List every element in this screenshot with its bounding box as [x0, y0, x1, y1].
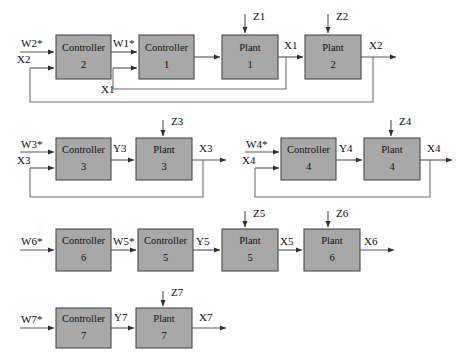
label-x2-output: X2: [369, 39, 382, 51]
block-plant-1[interactable]: Plant 1: [222, 35, 278, 79]
block-plant-2-line1: Plant: [322, 42, 344, 53]
block-plant-1-line1: Plant: [239, 42, 261, 53]
block-controller-3-line2: 3: [81, 161, 86, 172]
block-plant-3[interactable]: Plant 3: [136, 138, 192, 180]
block-controller-5-line1: Controller: [144, 235, 188, 246]
label-z1: Z1: [253, 10, 265, 22]
block-plant-6-line2: 6: [329, 252, 334, 263]
block-plant-1-line2: 1: [247, 59, 252, 70]
block-controller-2[interactable]: Controller 2: [56, 35, 111, 79]
block-plant-4-line2: 4: [389, 161, 395, 172]
block-plant-7-line1: Plant: [153, 313, 175, 324]
block-plant-3-line2: 3: [161, 161, 166, 172]
block-diagram-svg: Controller 2 Controller 1 Plant 1 Plant …: [0, 0, 463, 363]
label-w2-star: W2*: [21, 37, 42, 49]
label-x1-feedback: X1: [101, 83, 114, 95]
block-plant-3-line1: Plant: [153, 144, 175, 155]
block-controller-1[interactable]: Controller 1: [139, 35, 194, 79]
label-w1-star: W1*: [113, 37, 134, 49]
block-diagram-canvas: Controller 2 Controller 1 Plant 1 Plant …: [0, 0, 463, 363]
block-controller-3[interactable]: Controller 3: [56, 138, 111, 180]
label-y3: Y3: [113, 142, 127, 154]
block-plant-2-line2: 2: [330, 59, 335, 70]
label-y7: Y7: [114, 311, 128, 323]
block-controller-1-line2: 1: [164, 59, 169, 70]
block-plant-4-line1: Plant: [381, 144, 403, 155]
block-controller-5-line2: 5: [163, 252, 168, 263]
label-x1-output: X1: [284, 39, 297, 51]
block-plant-5-line1: Plant: [239, 235, 261, 246]
block-controller-6[interactable]: Controller 6: [56, 229, 111, 271]
label-z6: Z6: [336, 207, 349, 219]
block-controller-4-line1: Controller: [287, 144, 331, 155]
block-plant-7[interactable]: Plant 7: [136, 308, 192, 348]
label-z4: Z4: [399, 115, 412, 127]
label-x3-input: X3: [17, 154, 31, 166]
block-plant-5-line2: 5: [247, 252, 252, 263]
block-plant-6-line1: Plant: [321, 235, 343, 246]
block-controller-5[interactable]: Controller 5: [138, 229, 193, 271]
label-x4-input: X4: [242, 154, 256, 166]
label-w3-star: W3*: [21, 138, 42, 150]
block-plant-7-line2: 7: [161, 330, 166, 341]
row2-left-wires: [20, 120, 226, 197]
block-plant-5[interactable]: Plant 5: [222, 229, 278, 271]
label-x2-input: X2: [17, 53, 30, 65]
label-z3: Z3: [171, 115, 184, 127]
block-controller-3-line1: Controller: [62, 144, 106, 155]
block-controller-6-line1: Controller: [62, 235, 106, 246]
block-controller-2-line1: Controller: [62, 42, 106, 53]
label-w4-star: W4*: [246, 138, 267, 150]
row2-right-wires: [245, 120, 452, 197]
label-z2: Z2: [336, 10, 348, 22]
label-x3-output: X3: [199, 142, 213, 154]
label-y5: Y5: [196, 235, 210, 247]
label-w6-star: W6*: [21, 235, 42, 247]
label-x5: X5: [280, 235, 294, 247]
block-controller-7[interactable]: Controller 7: [56, 308, 111, 348]
label-x4-output: X4: [427, 142, 441, 154]
block-plant-4[interactable]: Plant 4: [364, 138, 420, 180]
label-z5: Z5: [253, 207, 266, 219]
block-controller-4-line2: 4: [306, 161, 312, 172]
label-x7: X7: [199, 311, 213, 323]
block-controller-7-line1: Controller: [62, 313, 106, 324]
label-z7: Z7: [171, 286, 184, 298]
label-w5-star: W5*: [113, 235, 134, 247]
label-x6: X6: [364, 235, 378, 247]
block-plant-2[interactable]: Plant 2: [305, 35, 361, 79]
block-controller-2-line2: 2: [81, 59, 86, 70]
block-controller-6-line2: 6: [81, 252, 86, 263]
block-plant-6[interactable]: Plant 6: [304, 229, 360, 271]
label-y4: Y4: [339, 142, 353, 154]
label-w7-star: W7*: [21, 313, 42, 325]
block-controller-4[interactable]: Controller 4: [281, 138, 336, 180]
block-controller-7-line2: 7: [81, 330, 86, 341]
block-controller-1-line1: Controller: [145, 42, 189, 53]
